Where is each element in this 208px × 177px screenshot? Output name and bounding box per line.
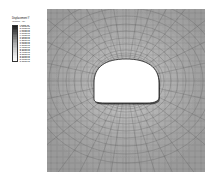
legend-body: 4.375E-13-1.500E-03-3.000E-03-4.500E-03-… [12, 25, 48, 63]
legend: Displacement Y (Tunnel - m) 4.375E-13-1.… [12, 17, 48, 70]
legend-subtitle: (Tunnel - m) [12, 20, 48, 23]
contour-plot [47, 9, 205, 172]
tunnel-opening [94, 59, 160, 105]
legend-level-label: -3.150E-02 [19, 61, 48, 63]
colorbar [12, 25, 18, 63]
plot-field [47, 9, 205, 172]
legend-level-list: 4.375E-13-1.500E-03-3.000E-03-4.500E-03-… [19, 25, 48, 63]
figure-root: Displacement Y (Tunnel - m) 4.375E-13-1.… [0, 0, 208, 177]
mesh-svg [47, 9, 205, 172]
colorbar-swatch [13, 60, 17, 62]
tunnel-boundary [94, 59, 159, 103]
